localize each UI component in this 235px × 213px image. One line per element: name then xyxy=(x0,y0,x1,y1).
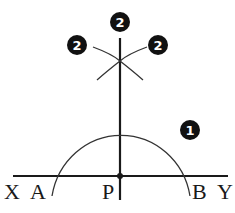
svg-text:2: 2 xyxy=(72,38,81,53)
step2-badge-top: 2 xyxy=(110,12,130,32)
step2-badge-left: 2 xyxy=(67,35,87,55)
svg-text:2: 2 xyxy=(115,15,124,30)
label-y: Y xyxy=(217,179,233,204)
label-p: P xyxy=(102,179,114,204)
label-b: B xyxy=(192,179,207,204)
label-a: A xyxy=(30,179,46,204)
label-x: X xyxy=(4,179,20,204)
svg-text:1: 1 xyxy=(185,123,194,138)
svg-text:2: 2 xyxy=(153,38,162,53)
step2-badge-right: 2 xyxy=(148,35,168,55)
point-p-dot xyxy=(117,173,123,179)
geometry-diagram: X A P B Y 2 2 2 1 xyxy=(0,0,235,213)
step1-badge: 1 xyxy=(180,120,200,140)
